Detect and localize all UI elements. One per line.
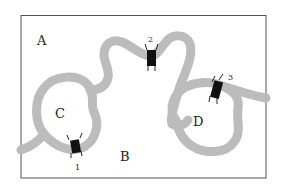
river-bridges-diagram: 1 2 3 A B C D bbox=[0, 0, 282, 194]
river bbox=[21, 36, 266, 152]
region-b-label: B bbox=[120, 149, 130, 164]
region-a-label: A bbox=[36, 33, 47, 48]
region-c-label: C bbox=[55, 106, 65, 121]
frame bbox=[21, 16, 266, 179]
bridge-3-label: 3 bbox=[228, 73, 233, 82]
bridge-1-label: 1 bbox=[75, 163, 80, 172]
bridge-2-label: 2 bbox=[148, 35, 153, 44]
region-d-label: D bbox=[193, 114, 203, 129]
